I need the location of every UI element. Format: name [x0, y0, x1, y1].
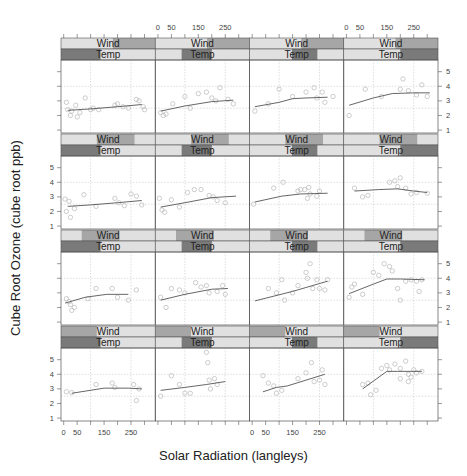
data-point: [307, 185, 311, 189]
x-tick-label: 250: [313, 428, 326, 437]
wind-strip-label: Wind: [285, 230, 308, 241]
data-point: [296, 376, 300, 380]
wind-strip-label: Wind: [191, 326, 214, 337]
smooth-line: [68, 201, 142, 207]
data-point: [374, 388, 378, 392]
panel-border: [250, 60, 344, 133]
temp-strip-label: Temp: [379, 49, 404, 60]
data-point: [70, 308, 74, 312]
y-tick-label: 4: [446, 82, 450, 91]
data-point: [304, 371, 308, 375]
data-point: [204, 283, 208, 287]
x-tick-label: 0: [62, 428, 66, 437]
temp-strip-label: Temp: [96, 241, 121, 252]
panel-r1-c3: WindTemp: [250, 38, 344, 133]
data-point: [266, 286, 270, 290]
data-point: [304, 90, 308, 94]
x-tick-label: 250: [408, 23, 421, 32]
data-point: [323, 100, 327, 104]
data-point: [290, 94, 294, 98]
y-tick-label: 1: [50, 222, 54, 231]
data-point: [309, 360, 313, 364]
data-point: [63, 197, 67, 201]
wind-strip-label: Wind: [379, 326, 402, 337]
panel-r3-c4: WindTemp: [344, 230, 438, 325]
data-point: [360, 195, 364, 199]
panel-r3-c3: WindTemp: [250, 230, 344, 325]
y-tick-label: 2: [446, 303, 450, 312]
x-tick-label: 0: [344, 23, 348, 32]
data-point: [274, 291, 278, 295]
data-point: [315, 194, 319, 198]
wind-strip-label: Wind: [97, 230, 120, 241]
data-point: [140, 203, 144, 207]
data-point: [206, 360, 210, 364]
data-point: [199, 187, 203, 191]
y-tick-label: 5: [50, 355, 54, 364]
smooth-line: [255, 97, 328, 106]
y-tick-label: 2: [446, 111, 450, 120]
panel-border: [344, 348, 438, 421]
y-tick-label: 1: [50, 414, 54, 423]
data-point: [113, 385, 117, 389]
wind-strip-shade: [250, 326, 286, 337]
panel-border: [155, 156, 249, 229]
panel-r4-c3: WindTemp: [250, 326, 344, 421]
x-tick-label: 250: [125, 428, 138, 437]
x-tick-label: 50: [356, 23, 364, 32]
data-point: [231, 102, 235, 106]
wind-strip-label: Wind: [285, 326, 308, 337]
data-point: [379, 366, 383, 370]
x-tick-label: 250: [219, 23, 232, 32]
data-point: [360, 292, 364, 296]
data-point: [320, 90, 324, 94]
data-point: [347, 113, 351, 117]
temp-strip-label: Temp: [379, 337, 404, 348]
data-point: [68, 113, 72, 117]
panel-r3-c2: WindTemp: [155, 230, 249, 325]
data-point: [398, 87, 402, 91]
data-point: [75, 115, 79, 119]
data-point: [188, 391, 192, 395]
data-point: [113, 196, 117, 200]
panel-border: [61, 60, 155, 133]
panel-r2-c3: WindTemp: [250, 134, 344, 229]
data-point: [395, 286, 399, 290]
data-point: [199, 285, 203, 289]
wind-strip-label: Wind: [285, 38, 308, 49]
x-tick-label: 50: [73, 428, 81, 437]
y-tick-label: 3: [50, 384, 54, 393]
y-tick-label: 4: [50, 370, 54, 379]
data-point: [368, 393, 372, 397]
data-point: [70, 390, 74, 394]
data-point: [323, 288, 327, 292]
data-point: [164, 305, 168, 309]
x-tick-label: 150: [98, 428, 111, 437]
panel-border: [344, 60, 438, 133]
wind-strip-label: Wind: [285, 134, 308, 145]
data-point: [398, 366, 402, 370]
panel-border: [250, 348, 344, 421]
data-point: [377, 273, 381, 277]
data-point: [110, 381, 114, 385]
panel-r2-c2: WindTemp: [155, 134, 249, 229]
data-point: [169, 198, 173, 202]
data-point: [320, 368, 324, 372]
y-tick-label: 5: [446, 67, 450, 76]
panel-r4-c1: WindTemp: [61, 326, 155, 421]
temp-strip-label: Temp: [96, 145, 121, 156]
smooth-line: [255, 193, 328, 202]
wind-strip-shade: [155, 326, 191, 337]
panel-border: [155, 348, 249, 421]
data-point: [196, 91, 200, 95]
panel-r1-c2: WindTemp: [155, 38, 249, 133]
data-point: [218, 86, 222, 90]
temp-strip-shade: [61, 241, 101, 252]
data-point: [406, 88, 410, 92]
temp-strip-label: Temp: [284, 49, 309, 60]
panel-border: [61, 348, 155, 421]
data-point: [398, 376, 402, 380]
data-point: [94, 286, 98, 290]
data-point: [352, 186, 356, 190]
data-point: [352, 282, 356, 286]
